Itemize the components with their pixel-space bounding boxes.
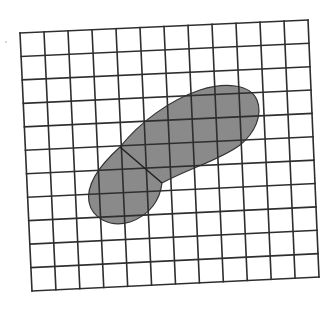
area-grid-figure [0, 0, 326, 309]
grid-vertical-line [92, 30, 104, 288]
grid-vertical-line [260, 22, 271, 279]
grid-vertical-line [44, 32, 56, 290]
grid-vertical-line [20, 33, 32, 291]
grid-vertical-line [284, 21, 295, 278]
grid-vertical-line [236, 23, 247, 280]
square-grid [20, 20, 319, 291]
grid-vertical-line [68, 31, 80, 289]
shaded-region [89, 85, 259, 223]
scan-speck [5, 41, 7, 43]
grid-vertical-line [308, 20, 319, 277]
